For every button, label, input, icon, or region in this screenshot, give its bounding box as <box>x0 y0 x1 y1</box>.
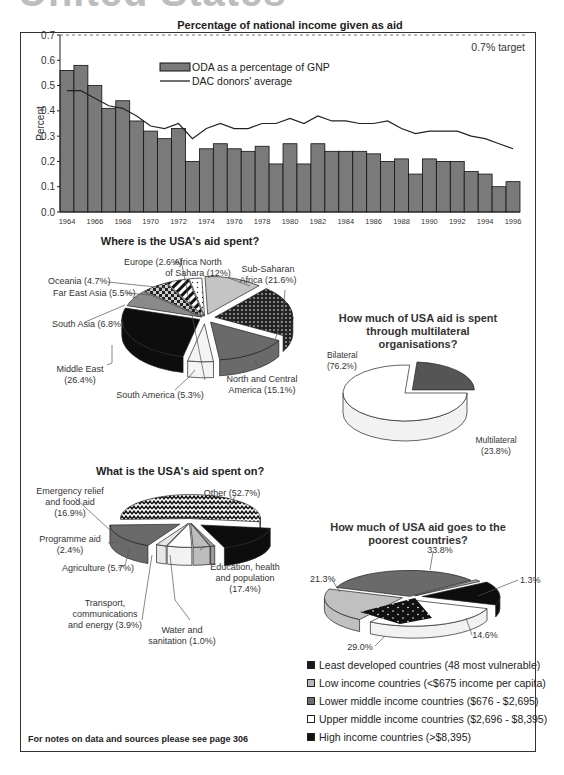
label-far-east-asia: Far East Asia (5.5%) <box>53 288 136 298</box>
pie-slice <box>412 362 474 390</box>
pie-spent-on: What is the USA's aid spent on?Other (52… <box>36 465 280 646</box>
bar-1966 <box>88 86 102 212</box>
label-other: Other (52.7%) <box>204 488 261 498</box>
bar-1964 <box>60 70 74 212</box>
pie-slice-side <box>156 545 166 564</box>
legend-swatch <box>307 733 315 741</box>
legend-swatch <box>307 679 315 687</box>
bar-1981 <box>297 164 311 212</box>
bar-1992 <box>450 161 464 212</box>
x-tick-label: 1988 <box>393 217 410 226</box>
bar-1975 <box>213 144 227 212</box>
chart-title: Where is the USA's aid spent? <box>101 235 260 247</box>
y-tick-label: 0.5 <box>41 80 55 91</box>
label-bilateral: Bilateral(76.2%) <box>327 350 358 371</box>
label-1-3: 1.3% <box>520 575 541 585</box>
legend-swatch <box>307 715 315 723</box>
label-south-america: South America (5.3%) <box>116 390 204 400</box>
legend-label: High income countries (>$8,395) <box>319 731 471 743</box>
legend-label-dac: DAC donors' average <box>192 75 292 87</box>
x-tick-label: 1968 <box>114 217 131 226</box>
label-oceania: Oceania (4.7%) <box>48 276 111 286</box>
bar-1996 <box>506 182 520 212</box>
label-water-sanitation: Water andsanitation (1.0%) <box>148 625 216 646</box>
legend-item: Upper middle income countries ($2,696 - … <box>307 710 547 728</box>
x-tick-label: 1974 <box>198 217 215 226</box>
legend-swatch <box>307 661 315 669</box>
x-tick-label: 1970 <box>142 217 159 226</box>
label-europe: Europe (2.6%) <box>124 257 182 267</box>
bar-1969 <box>130 121 144 212</box>
bar-1980 <box>283 144 297 212</box>
legend-label: Least developed countries (48 most vulne… <box>319 659 540 671</box>
target-label: 0.7% target <box>471 41 525 53</box>
bar-1985 <box>353 151 367 212</box>
label-sub-saharan: Sub-SaharanAfrica (21.6%) <box>239 264 296 285</box>
bar-1972 <box>172 129 186 212</box>
bar-chart-aid-percentage: Percentage of national income given as a… <box>35 19 525 226</box>
x-tick-label: 1972 <box>170 217 187 226</box>
bar-1974 <box>199 149 213 212</box>
legend-label-oda: ODA as a percentage of GNP <box>192 61 330 73</box>
chart-title: How much of USA aid is spentthrough mult… <box>339 312 498 350</box>
y-axis-label: Percent <box>35 106 46 141</box>
x-tick-label: 1984 <box>337 217 354 226</box>
chart-title: How much of USA aid goes to thepoorest c… <box>330 521 506 546</box>
label-north-central-america: North and CentralAmerica (15.1%) <box>226 374 297 395</box>
bar-1988 <box>395 159 409 212</box>
y-tick-label: 0.2 <box>41 156 55 167</box>
x-tick-label: 1996 <box>505 217 522 226</box>
label-programme-aid: Programme aid(2.4%) <box>39 534 101 555</box>
bar-1983 <box>325 151 339 212</box>
leader-line <box>142 555 152 620</box>
label-middle-east: Middle East(26.4%) <box>56 364 104 385</box>
bar-1987 <box>381 161 395 212</box>
y-tick-label: 0.0 <box>41 207 55 218</box>
x-tick-label: 1986 <box>365 217 382 226</box>
legend-label: Upper middle income countries ($2,696 - … <box>319 713 547 725</box>
legend-item: Low income countries (<$675 income per c… <box>307 674 547 692</box>
bar-1994 <box>478 174 492 212</box>
label-29-0: 29.0% <box>347 642 373 652</box>
y-tick-label: 0.7 <box>41 30 55 41</box>
bar-1965 <box>74 65 88 212</box>
bar-1986 <box>367 154 381 212</box>
legend-swatch-oda <box>160 63 190 71</box>
label-33-8: 33.8% <box>427 545 453 555</box>
x-tick-label: 1990 <box>421 217 438 226</box>
poorest-countries-legend: Least developed countries (48 most vulne… <box>307 656 547 746</box>
label-multilateral: Multilateral(23.8%) <box>475 435 516 456</box>
pie-multilateral: How much of USA aid is spentthrough mult… <box>327 312 517 456</box>
legend-item: High income countries (>$8,395) <box>307 728 547 746</box>
label-21-3: 21.3% <box>310 574 336 584</box>
x-tick-label: 1964 <box>59 217 76 226</box>
pie-slice-side <box>193 546 210 565</box>
label-14-6: 14.6% <box>472 630 498 640</box>
legend-label: Low income countries (<$675 income per c… <box>319 677 546 689</box>
x-tick-label: 1992 <box>449 217 466 226</box>
legend-label: Lower middle income countries ($676 - $2… <box>319 695 538 707</box>
chart-title: Percentage of national income given as a… <box>177 19 403 31</box>
bar-1978 <box>255 146 269 212</box>
bar-1977 <box>241 151 255 212</box>
bar-1991 <box>436 161 450 212</box>
pie-poorest-countries: How much of USA aid goes to thepoorest c… <box>310 521 541 652</box>
bar-1995 <box>492 187 506 212</box>
bar-1970 <box>144 131 158 212</box>
x-tick-label: 1976 <box>226 217 243 226</box>
pie-slice <box>120 495 260 522</box>
x-tick-label: 1978 <box>254 217 271 226</box>
bar-1984 <box>339 151 353 212</box>
bar-1971 <box>158 139 172 212</box>
label-emergency-relief: Emergency reliefand food aid(16.9%) <box>36 486 104 518</box>
bar-1967 <box>102 108 116 212</box>
y-tick-label: 0.1 <box>41 181 55 192</box>
legend-item: Lower middle income countries ($676 - $2… <box>307 692 547 710</box>
bar-1976 <box>227 149 241 212</box>
legend-swatch <box>307 697 315 705</box>
x-tick-label: 1966 <box>87 217 104 226</box>
leader-line <box>107 345 112 365</box>
footer-note: For notes on data and sources please see… <box>28 734 248 744</box>
bar-1979 <box>269 164 283 212</box>
bar-1968 <box>116 101 130 212</box>
